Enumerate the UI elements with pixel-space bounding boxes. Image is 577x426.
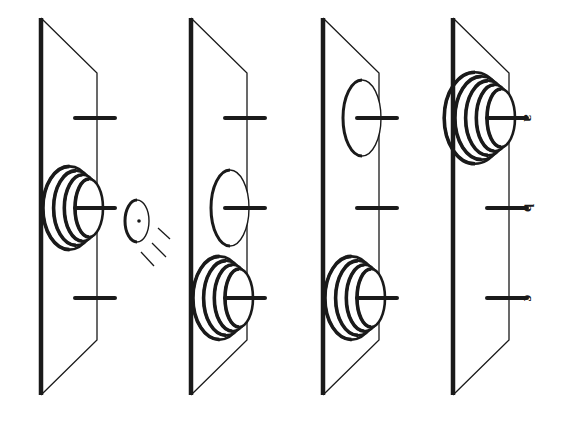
panel-2 [191, 18, 265, 395]
incoming-disc [125, 200, 170, 266]
panel-3 [323, 18, 397, 395]
disc-center-dot [137, 219, 141, 223]
label-c: c [521, 295, 537, 302]
panel-4 [444, 18, 527, 395]
motion-line [141, 252, 154, 266]
panel-1 [41, 18, 170, 395]
motion-line [158, 228, 170, 239]
diagram-canvas: a b c [0, 0, 577, 426]
diagram-svg: a b c [0, 0, 577, 426]
motion-line [152, 243, 166, 257]
label-b: b [521, 204, 537, 212]
label-a: a [521, 114, 537, 122]
